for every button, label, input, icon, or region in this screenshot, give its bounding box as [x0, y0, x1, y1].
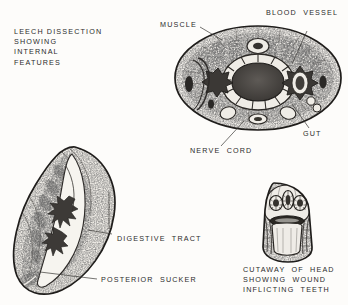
label-posterior-sucker: POSTERIOR SUCKER	[101, 275, 197, 284]
label-muscle: MUSCLE	[160, 20, 197, 29]
plate-title: LEECH DISSECTION SHOWING INTERNAL FEATUR…	[14, 27, 102, 68]
head-caption-line-2: SHOWING WOUND	[243, 275, 326, 284]
throat-cavity	[272, 223, 302, 255]
label-nerve-cord: NERVE CORD	[190, 146, 252, 155]
head-caption-line-1: CUTAWAY OF HEAD	[243, 265, 335, 274]
figure-transverse-section	[175, 26, 341, 130]
head-cutaway-caption: CUTAWAY OF HEAD SHOWING WOUND INFLICTING…	[243, 265, 335, 296]
head-caption-line-3: INFLICTING TEETH	[243, 285, 330, 294]
right-caecum	[282, 66, 318, 100]
dorsal-vessel	[247, 39, 269, 54]
lateral-sinus-right	[319, 76, 326, 89]
label-blood-vessel: BLOOD VESSEL	[266, 8, 338, 17]
label-digestive-tract: DIGESTIVE TRACT	[117, 234, 202, 243]
label-gut: GUT	[303, 129, 322, 138]
